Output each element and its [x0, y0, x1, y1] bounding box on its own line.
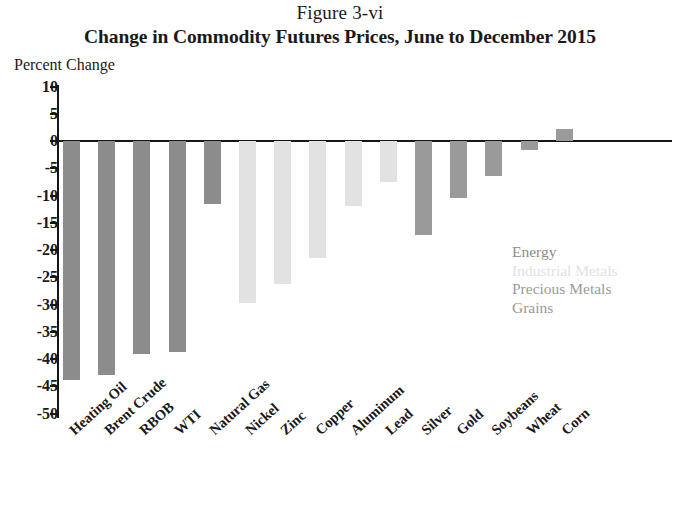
bar-wti [169, 141, 186, 352]
bar-copper [309, 141, 326, 258]
bar-heating-oil [63, 141, 80, 380]
bar-lead [380, 141, 397, 182]
bar-nickel [239, 141, 256, 303]
legend-entry-energy: Energy [512, 243, 617, 262]
bar-soybeans [485, 141, 502, 176]
bar-aluminum [345, 141, 362, 206]
x-axis-label: Copper [312, 395, 358, 438]
bar-gold [450, 141, 467, 198]
chart-legend: EnergyIndustrial MetalsPrecious MetalsGr… [512, 243, 617, 317]
bar-wheat [521, 141, 538, 150]
legend-entry-industrial-metals: Industrial Metals [512, 262, 617, 281]
bar-rbob [133, 141, 150, 354]
bar-zinc [274, 141, 291, 284]
x-axis-label: Silver [418, 402, 456, 438]
bar-silver [415, 141, 432, 235]
legend-entry-precious-metals: Precious Metals [512, 280, 617, 299]
x-axis-label: Gold [453, 406, 487, 439]
figure-container: Figure 3-vi Change in Commodity Futures … [0, 0, 680, 514]
bar-brent-crude [98, 141, 115, 375]
bar-natural-gas [204, 141, 221, 204]
legend-entry-grains: Grains [512, 299, 617, 318]
bar-corn [556, 129, 573, 141]
